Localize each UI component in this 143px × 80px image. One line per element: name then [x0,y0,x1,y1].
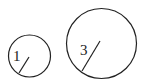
small-circle-radius [19,57,29,73]
small-circle-group: 1 [9,35,51,77]
small-circle-radius-label: 1 [13,48,21,64]
large-circle-radius-label: 3 [80,42,88,58]
circles-diagram: 1 3 [0,0,143,80]
large-circle [67,9,137,79]
large-circle-group: 3 [67,9,137,79]
